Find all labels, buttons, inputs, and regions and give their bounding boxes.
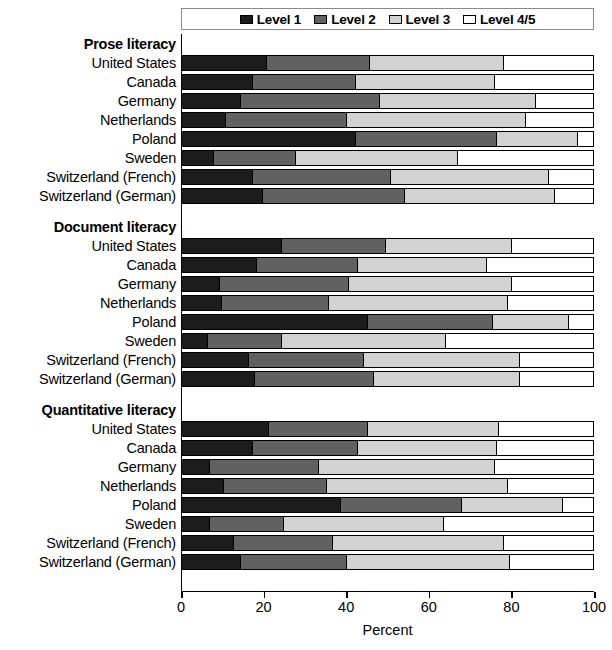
bar-segment: [182, 498, 340, 512]
bar-segment: [182, 56, 266, 70]
legend-item: Level 1: [240, 12, 301, 27]
x-axis-tick: [264, 592, 266, 598]
bar-segment: [390, 170, 548, 184]
bar-segment: [503, 56, 593, 70]
bar-segment: [254, 372, 373, 386]
bar-segment: [182, 422, 268, 436]
country-label: Sweden: [0, 151, 176, 166]
bar-segment: [554, 189, 593, 203]
stacked-bar: [181, 188, 594, 204]
bar-segment: [283, 517, 443, 531]
bar-segment: [182, 151, 213, 165]
bar-segment: [182, 277, 219, 291]
bar-segment: [346, 113, 525, 127]
stacked-bar: [181, 459, 594, 475]
bar-segment: [548, 170, 593, 184]
bar-segment: [219, 277, 348, 291]
bar-segment: [568, 315, 593, 329]
bar-segment: [519, 353, 593, 367]
bar-segment: [404, 189, 554, 203]
x-axis-tick-label: 0: [161, 599, 201, 615]
country-label: Sweden: [0, 334, 176, 349]
bar-segment: [209, 460, 318, 474]
bar-segment: [348, 277, 510, 291]
literacy-levels-stacked-bar-chart: Level 1Level 2Level 3Level 4/5 Prose lit…: [0, 0, 612, 650]
bar-segment: [445, 334, 593, 348]
stacked-bar: [181, 238, 594, 254]
bars-layer: [181, 34, 594, 592]
country-label: Poland: [0, 315, 176, 330]
bar-segment: [182, 189, 262, 203]
country-label: Netherlands: [0, 296, 176, 311]
bar-segment: [295, 151, 457, 165]
legend-swatch-icon: [314, 15, 327, 24]
bar-segment: [494, 460, 593, 474]
bar-segment: [355, 132, 497, 146]
bar-segment: [535, 94, 593, 108]
bar-segment: [357, 258, 486, 272]
bar-segment: [511, 277, 593, 291]
country-label: Switzerland (French): [0, 536, 176, 551]
bar-segment: [346, 555, 508, 569]
bar-segment: [182, 536, 233, 550]
country-label: Canada: [0, 441, 176, 456]
legend-item: Level 4/5: [463, 12, 535, 27]
country-label: Netherlands: [0, 479, 176, 494]
bar-segment: [182, 132, 355, 146]
country-label: Poland: [0, 498, 176, 513]
country-label: United States: [0, 422, 176, 437]
bar-segment: [240, 555, 347, 569]
bar-segment: [369, 56, 503, 70]
bar-segment: [367, 422, 499, 436]
bar-segment: [182, 353, 248, 367]
bar-segment: [268, 422, 367, 436]
bar-segment: [182, 296, 221, 310]
bar-segment: [182, 170, 252, 184]
bar-segment: [182, 441, 252, 455]
legend-label: Level 1: [257, 12, 301, 27]
bar-segment: [182, 75, 252, 89]
bar-segment: [443, 517, 593, 531]
bar-segment: [379, 94, 535, 108]
bar-segment: [209, 517, 283, 531]
bar-segment: [182, 334, 207, 348]
stacked-bar: [181, 112, 594, 128]
bar-segment: [221, 296, 328, 310]
bar-segment: [182, 479, 223, 493]
bar-segment: [182, 94, 240, 108]
x-axis-title: Percent: [181, 622, 594, 638]
stacked-bar: [181, 478, 594, 494]
bar-segment: [328, 296, 507, 310]
country-label: Germany: [0, 277, 176, 292]
bar-segment: [355, 75, 495, 89]
country-label: Switzerland (German): [0, 372, 176, 387]
bar-segment: [182, 113, 225, 127]
bar-segment: [248, 353, 363, 367]
bar-segment: [182, 258, 256, 272]
stacked-bar: [181, 421, 594, 437]
bar-segment: [213, 151, 295, 165]
country-label: Sweden: [0, 517, 176, 532]
stacked-bar: [181, 497, 594, 513]
x-axis-tick-label: 80: [491, 599, 531, 615]
bar-segment: [182, 239, 281, 253]
bar-segment: [363, 353, 519, 367]
bar-segment: [367, 315, 492, 329]
x-axis-tick: [181, 592, 183, 598]
bar-segment: [281, 239, 386, 253]
bar-segment: [332, 536, 503, 550]
bar-segment: [233, 536, 332, 550]
legend-label: Level 2: [331, 12, 375, 27]
bar-segment: [256, 258, 357, 272]
country-label: Netherlands: [0, 113, 176, 128]
country-label: United States: [0, 56, 176, 71]
bar-segment: [503, 536, 593, 550]
bar-segment: [494, 75, 593, 89]
bar-segment: [507, 479, 593, 493]
country-label: Germany: [0, 94, 176, 109]
country-label: United States: [0, 239, 176, 254]
bar-segment: [577, 132, 593, 146]
stacked-bar: [181, 74, 594, 90]
country-label: Switzerland (French): [0, 170, 176, 185]
bar-segment: [240, 94, 380, 108]
